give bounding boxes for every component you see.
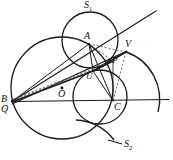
label-A: A	[84, 31, 90, 41]
geometry-figure: S1 S2 A V P U O B Q C	[0, 0, 173, 160]
label-C: C	[114, 102, 121, 112]
circles-group	[11, 12, 127, 139]
segment-B-A	[12, 44, 89, 102]
label-U: U	[86, 72, 93, 81]
label-O: O	[58, 89, 65, 99]
arcs-group	[76, 52, 160, 140]
point-A-dot	[88, 43, 90, 45]
label-V: V	[125, 39, 131, 49]
label-P: P	[112, 56, 118, 65]
arc-S2-right	[126, 52, 160, 112]
circle-lower	[73, 70, 127, 124]
label-S1: S1	[84, 0, 92, 13]
label-Q: Q	[1, 104, 8, 114]
label-S2: S2	[124, 139, 132, 152]
leaders-group	[108, 140, 122, 144]
segment-U-C	[93, 71, 113, 101]
leader-S2	[108, 140, 122, 144]
point-B-dot	[11, 100, 13, 102]
horizontal-line-BC	[12, 100, 169, 102]
